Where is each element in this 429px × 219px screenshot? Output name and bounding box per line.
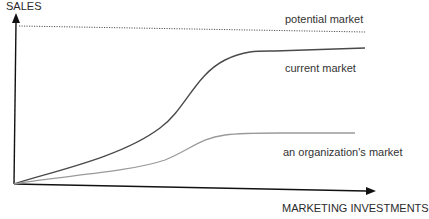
x-axis-arrow-icon [366,187,376,195]
potential-market-label: potential market [285,13,363,25]
organization-market-curve [14,133,355,184]
diagram-canvas [0,0,429,219]
y-axis-arrow-icon [12,13,20,23]
organization-market-label: an organization's market [283,146,403,158]
x-axis [14,184,366,191]
y-axis-label: SALES [6,0,41,12]
current-market-label: current market [285,62,356,74]
y-axis [14,22,16,184]
x-axis-label: MARKETING INVESTMENTS [282,202,429,214]
potential-market-line [19,26,365,32]
